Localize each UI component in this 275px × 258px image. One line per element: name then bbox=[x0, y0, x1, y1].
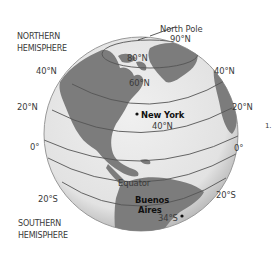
new-york-marker bbox=[135, 112, 138, 115]
buenos-aires-label-line1: Buenos bbox=[135, 195, 169, 205]
equator-label: Equator bbox=[118, 178, 150, 188]
side-mark: 1. bbox=[265, 121, 271, 131]
lat-label-right-40N: 40°N bbox=[214, 66, 235, 76]
north-pole-lat: 90°N bbox=[170, 34, 191, 44]
new-york-lat: 40°N bbox=[152, 121, 173, 131]
new-york-label: New York bbox=[141, 110, 184, 120]
lat-label-right-20S: 20°S bbox=[216, 190, 236, 200]
lat-label-left-20N: 20°N bbox=[17, 102, 38, 112]
lat-label-left-40N: 40°N bbox=[36, 66, 57, 76]
lat-label-left-0: 0° bbox=[30, 142, 39, 152]
lat-label-right-0: 0° bbox=[234, 143, 243, 153]
lat-label-left-20S: 20°S bbox=[38, 194, 58, 204]
lat-label-right-20N: 20°N bbox=[232, 102, 253, 112]
north-pole-label: North Pole bbox=[160, 24, 202, 34]
buenos-aires-marker bbox=[180, 214, 183, 217]
lat-label-80N: 80°N bbox=[127, 53, 148, 63]
lat-label-60N: 60°N bbox=[129, 78, 150, 88]
buenos-aires-lat: 34°S bbox=[158, 213, 178, 223]
southern-hemisphere-label: SOUTHERN HEMISPHERE bbox=[18, 218, 68, 242]
northern-hemisphere-label: NORTHERN HEMISPHERE bbox=[17, 31, 67, 55]
